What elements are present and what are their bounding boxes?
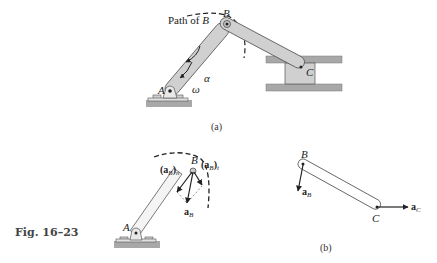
panel-a2-acceleration: B A (aB)n (aB)t aB xyxy=(114,153,220,248)
path-of-b-label: Path of B xyxy=(168,14,209,26)
panel-b-link-bc: B C aB aC (b) xyxy=(296,148,421,254)
pin-c xyxy=(300,66,303,69)
base-plate xyxy=(148,98,188,101)
point-b-label: B xyxy=(223,7,230,19)
point-a-label: A xyxy=(157,84,165,96)
link-bc-2 xyxy=(296,157,382,211)
omega-label: ω xyxy=(192,83,200,95)
ac-label: aC xyxy=(411,201,421,214)
point-b2-label: B xyxy=(191,154,198,166)
kinematics-figure: Path of B B A C α ω (a) B A (aB)n (aB)t … xyxy=(0,0,437,263)
point-c-label-b: C xyxy=(372,212,380,224)
point-a2-label: A xyxy=(122,221,130,233)
point-b-label-b: B xyxy=(301,148,308,160)
lower-guide xyxy=(266,84,342,91)
at-label: (aB)t xyxy=(201,159,220,172)
panel-b-caption: (b) xyxy=(320,242,332,254)
link-bc xyxy=(218,15,307,70)
figure-caption: Fig. 16–23 xyxy=(15,226,78,239)
at-vector-icon xyxy=(194,172,202,185)
alpha-label: α xyxy=(204,72,210,84)
point-c-label: C xyxy=(306,66,314,78)
an-label: (aB)n xyxy=(160,164,180,177)
ab-label: aB xyxy=(184,206,194,219)
pin-a xyxy=(168,89,172,93)
panel-a-caption: (a) xyxy=(211,121,222,133)
panel-a-mechanism: Path of B B A C α ω (a) xyxy=(146,7,342,133)
ab-label-b: aB xyxy=(302,186,312,199)
link-ab-2 xyxy=(130,168,182,236)
